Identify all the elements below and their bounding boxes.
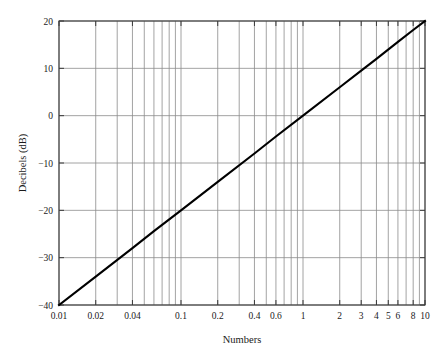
- x-tick-label: 0.2: [212, 311, 224, 321]
- y-tick-label: 10: [44, 64, 54, 74]
- y-tick-label: 20: [44, 17, 54, 27]
- x-tick-label: 0.1: [175, 311, 187, 321]
- y-tick-label: −40: [38, 301, 53, 311]
- x-tick-label: 3: [359, 311, 364, 321]
- decibels-vs-numbers-chart: 0.010.020.040.10.20.40.6123456810 20100−…: [0, 0, 445, 352]
- x-tick-label: 5: [386, 311, 391, 321]
- x-tick-label: 4: [374, 311, 379, 321]
- x-tick-label: 2: [337, 311, 342, 321]
- y-tick-label: −20: [38, 206, 53, 216]
- x-tick-label: 0.04: [124, 311, 141, 321]
- x-tick-label: 0.02: [87, 311, 104, 321]
- x-tick-label: 8: [411, 311, 416, 321]
- x-tick-label: 6: [396, 311, 401, 321]
- y-tick-label: 0: [48, 111, 53, 121]
- x-axis-title: Numbers: [223, 334, 262, 345]
- x-tick-label: 1: [301, 311, 306, 321]
- y-axis-title: Decibels (dB): [17, 133, 29, 192]
- x-tick-label: 0.4: [249, 311, 261, 321]
- x-tick-label: 0.01: [51, 311, 68, 321]
- y-tick-label: −30: [38, 253, 53, 263]
- chart-figure: 0.010.020.040.10.20.40.6123456810 20100−…: [0, 0, 445, 352]
- x-tick-label: 0.6: [270, 311, 282, 321]
- y-tick-label: −10: [38, 159, 53, 169]
- x-tick-label: 10: [420, 311, 430, 321]
